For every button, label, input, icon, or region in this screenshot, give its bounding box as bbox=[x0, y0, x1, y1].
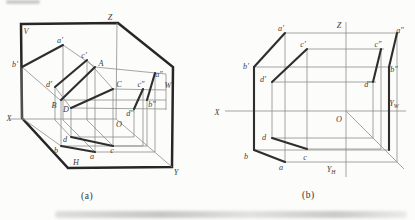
diagram_b-projection-segment-6 bbox=[373, 49, 381, 82]
diagram_a-construction-line-0 bbox=[116, 23, 117, 119]
diagram_a-label-d′: d′ bbox=[46, 80, 52, 89]
diagram_a-projection-segment-3 bbox=[71, 89, 113, 108]
diagram_b-label-a″: a″ bbox=[396, 26, 404, 35]
diagram_b-projection-segment-5 bbox=[389, 33, 397, 67]
diagram_a-label-b″: b″ bbox=[148, 100, 156, 109]
diagram_b-label-b: b bbox=[244, 152, 248, 161]
diagram_a-label-X: X bbox=[5, 114, 12, 123]
diagram_a-label-b′: b′ bbox=[12, 60, 18, 69]
diagram_b-projection-segment-4 bbox=[272, 138, 307, 149]
diagram_a-label-c″: c″ bbox=[137, 80, 145, 89]
diagram_a-projection-segment-6 bbox=[147, 73, 155, 100]
diagram_b-label-Z: Z bbox=[337, 21, 342, 30]
diagram_a-label-A: A bbox=[97, 59, 104, 68]
diagram_a-label-a′: a′ bbox=[57, 36, 63, 45]
diagram_b-label-c′: c′ bbox=[300, 40, 306, 49]
diagram_a-label-Z: Z bbox=[108, 13, 113, 22]
diagram_b-label-b′: b′ bbox=[243, 62, 249, 71]
diagram_b-label-b″: b″ bbox=[390, 65, 398, 74]
diagram_b-label-YH: YH bbox=[327, 165, 337, 175]
diagram-a-pictorial: VZWXYHOa′b′c′d′ABCDa″b″c″d″abcd bbox=[5, 13, 179, 177]
diagram_b-label-c: c bbox=[303, 153, 307, 162]
diagram_b-label-c″: c″ bbox=[374, 40, 382, 49]
diagram_a-projection-segment-2 bbox=[61, 67, 95, 100]
diagram_b-projection-segment-3 bbox=[254, 150, 285, 162]
caption-a: (a) bbox=[81, 191, 93, 201]
diagram_b-label-O: O bbox=[336, 115, 342, 124]
caption-b: (b) bbox=[302, 190, 315, 200]
cropped-text-ghost bbox=[55, 211, 407, 218]
diagram_a-projection-segment-1 bbox=[55, 60, 87, 87]
diagram_b-label-d′: d′ bbox=[260, 75, 266, 84]
diagram_a-construction-line-4 bbox=[22, 67, 60, 100]
diagram_a-label-C: C bbox=[116, 80, 122, 89]
diagram_a-projection-segment-0 bbox=[22, 45, 63, 67]
diagram_a-label-H: H bbox=[72, 158, 80, 167]
diagram_b-construction-line-2 bbox=[346, 111, 404, 169]
diagram_b-label-d″: d″ bbox=[364, 80, 372, 89]
diagram_b-label-YW: YW bbox=[389, 99, 400, 109]
diagram_b-label-d: d bbox=[262, 133, 267, 142]
diagram_b-projection-segment-0 bbox=[254, 33, 285, 67]
diagram_a-label-c: c bbox=[110, 146, 114, 155]
diagram_b-projection-segment-1 bbox=[272, 49, 307, 82]
diagram_a-construction-line-18 bbox=[22, 118, 61, 146]
diagram_a-projection-segment-5 bbox=[71, 137, 113, 146]
projection-diagram-svg: VZWXYHOa′b′c′d′ABCDa″b″c″d″abcd ZXOYWYHa… bbox=[0, 0, 415, 220]
diagram_a-label-B: B bbox=[51, 101, 56, 110]
diagram_a-label-d″: d″ bbox=[126, 109, 134, 118]
diagram_a-label-Y: Y bbox=[174, 168, 180, 177]
diagram_a-label-D: D bbox=[62, 105, 69, 114]
diagram_a-label-c′: c′ bbox=[81, 51, 87, 60]
diagram_a-label-d: d bbox=[63, 135, 68, 144]
diagram_a-label-W: W bbox=[165, 81, 173, 90]
diagram_a-label-b: b bbox=[54, 146, 58, 155]
diagram_a-construction-line-13 bbox=[113, 89, 166, 90]
diagram_b-label-X: X bbox=[213, 108, 220, 117]
diagram_b-label-a′: a′ bbox=[278, 24, 284, 33]
diagram_a-projection-segment-7 bbox=[134, 89, 143, 109]
diagram-b-unfolded: ZXOYWYHa′b′c′d′a″b″c″d″abcd bbox=[213, 21, 406, 177]
diagram_b-label-a: a bbox=[279, 163, 283, 172]
diagram_a-label-V: V bbox=[23, 27, 29, 36]
diagram_a-label-O: O bbox=[116, 120, 122, 129]
diagram_a-construction-line-2 bbox=[116, 119, 172, 167]
diagram_a-label-a″: a″ bbox=[155, 70, 163, 79]
diagram_a-label-a: a bbox=[90, 152, 94, 161]
scanned-textbook-figure: VZWXYHOa′b′c′d′ABCDa″b″c″d″abcd ZXOYWYHa… bbox=[0, 0, 415, 220]
